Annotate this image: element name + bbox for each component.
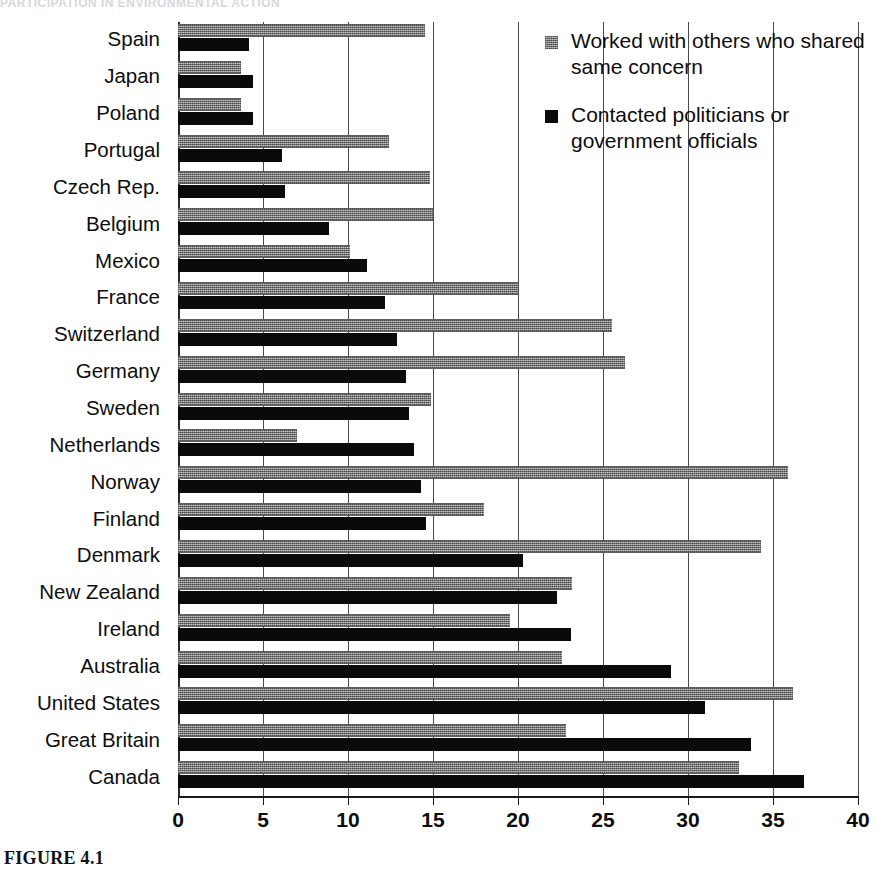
legend-label: Contacted politicians or government offi… bbox=[571, 102, 875, 154]
bar-worked-with-others bbox=[178, 135, 389, 148]
legend-label: Worked with others who shared same conce… bbox=[571, 28, 875, 80]
bar-worked-with-others bbox=[178, 577, 572, 590]
cropped-title: PARTICIPATION IN ENVIRONMENTAL ACTION bbox=[0, 0, 883, 10]
y-axis-label: New Zealand bbox=[0, 582, 160, 602]
y-axis-label: Canada bbox=[0, 767, 160, 787]
bar-row bbox=[178, 427, 858, 464]
bar-row bbox=[178, 243, 858, 280]
bar-contacted-politicians bbox=[178, 480, 421, 493]
x-axis-tick-label: 0 bbox=[148, 808, 208, 832]
bar-contacted-politicians bbox=[178, 701, 705, 714]
x-axis-tick-30 bbox=[688, 796, 689, 805]
bar-row bbox=[178, 354, 858, 391]
bar-contacted-politicians bbox=[178, 149, 282, 162]
bar-row bbox=[178, 391, 858, 428]
y-axis-label: Spain bbox=[0, 29, 160, 49]
y-axis-label: Switzerland bbox=[0, 324, 160, 344]
y-axis-label: Poland bbox=[0, 103, 160, 123]
bar-row bbox=[178, 722, 858, 759]
bar-contacted-politicians bbox=[178, 112, 253, 125]
bar-worked-with-others bbox=[178, 282, 518, 295]
bar-contacted-politicians bbox=[178, 370, 406, 383]
x-axis-tick-label: 35 bbox=[743, 808, 803, 832]
y-axis-label: Belgium bbox=[0, 214, 160, 234]
y-axis-label: France bbox=[0, 287, 160, 307]
x-axis-tick-label: 20 bbox=[488, 808, 548, 832]
bar-worked-with-others bbox=[178, 651, 562, 664]
bar-worked-with-others bbox=[178, 466, 788, 479]
y-axis-label: Mexico bbox=[0, 251, 160, 271]
bar-worked-with-others bbox=[178, 98, 241, 111]
y-axis-label: Portugal bbox=[0, 140, 160, 160]
bar-contacted-politicians bbox=[178, 628, 571, 641]
x-axis-tick-10 bbox=[348, 796, 349, 805]
bar-worked-with-others bbox=[178, 724, 566, 737]
bar-worked-with-others bbox=[178, 356, 625, 369]
bar-row bbox=[178, 464, 858, 501]
bar-worked-with-others bbox=[178, 319, 612, 332]
bar-contacted-politicians bbox=[178, 185, 285, 198]
x-axis-tick-label: 15 bbox=[403, 808, 463, 832]
bar-contacted-politicians bbox=[178, 222, 329, 235]
black-swatch-icon bbox=[545, 110, 558, 123]
bar-worked-with-others bbox=[178, 393, 431, 406]
bar-worked-with-others bbox=[178, 503, 484, 516]
x-axis-tick-35 bbox=[773, 796, 774, 805]
bar-contacted-politicians bbox=[178, 259, 367, 272]
bar-worked-with-others bbox=[178, 540, 761, 553]
x-axis-tick-label: 5 bbox=[233, 808, 293, 832]
bar-contacted-politicians bbox=[178, 591, 557, 604]
figure-caption: FIGURE 4.1 bbox=[4, 848, 104, 869]
bar-contacted-politicians bbox=[178, 775, 804, 788]
bar-worked-with-others bbox=[178, 429, 297, 442]
bar-contacted-politicians bbox=[178, 38, 249, 51]
bar-row bbox=[178, 575, 858, 612]
y-axis-label: Czech Rep. bbox=[0, 177, 160, 197]
bar-row bbox=[178, 612, 858, 649]
x-axis-tick-label: 40 bbox=[828, 808, 883, 832]
bar-contacted-politicians bbox=[178, 665, 671, 678]
bar-row bbox=[178, 538, 858, 575]
bar-row bbox=[178, 759, 858, 796]
y-axis-label: Finland bbox=[0, 509, 160, 529]
y-axis-label: Netherlands bbox=[0, 435, 160, 455]
x-axis-tick-0 bbox=[178, 796, 179, 805]
bar-worked-with-others bbox=[178, 208, 433, 221]
y-axis-label: Japan bbox=[0, 66, 160, 86]
legend-entry: Worked with others who shared same conce… bbox=[545, 28, 875, 80]
bar-worked-with-others bbox=[178, 61, 241, 74]
bar-worked-with-others bbox=[178, 761, 739, 774]
legend-entry: Contacted politicians or government offi… bbox=[545, 102, 875, 154]
y-axis-label: Great Britain bbox=[0, 730, 160, 750]
x-axis-tick-label: 10 bbox=[318, 808, 378, 832]
x-axis-tick-5 bbox=[263, 796, 264, 805]
x-axis-tick-20 bbox=[518, 796, 519, 805]
y-axis-label: Germany bbox=[0, 361, 160, 381]
bar-contacted-politicians bbox=[178, 517, 426, 530]
bar-contacted-politicians bbox=[178, 333, 397, 346]
bar-row bbox=[178, 280, 858, 317]
y-axis-label: Australia bbox=[0, 656, 160, 676]
x-axis-tick-40 bbox=[858, 796, 859, 805]
bar-contacted-politicians bbox=[178, 407, 409, 420]
figure-container: PARTICIPATION IN ENVIRONMENTAL ACTION Sp… bbox=[0, 0, 883, 875]
x-axis-tick-15 bbox=[433, 796, 434, 805]
bar-row bbox=[178, 649, 858, 686]
bar-row bbox=[178, 206, 858, 243]
bar-contacted-politicians bbox=[178, 738, 751, 751]
gray-swatch-icon bbox=[545, 36, 558, 49]
bar-worked-with-others bbox=[178, 245, 350, 258]
y-axis-label: Sweden bbox=[0, 398, 160, 418]
y-axis-labels: SpainJapanPolandPortugalCzech Rep.Belgiu… bbox=[0, 22, 170, 796]
bar-worked-with-others bbox=[178, 171, 430, 184]
bar-row bbox=[178, 685, 858, 722]
chart-legend: Worked with others who shared same conce… bbox=[545, 28, 875, 176]
bar-contacted-politicians bbox=[178, 443, 414, 456]
bar-contacted-politicians bbox=[178, 75, 253, 88]
x-axis-tick-25 bbox=[603, 796, 604, 805]
y-axis-label: Norway bbox=[0, 472, 160, 492]
bar-worked-with-others bbox=[178, 687, 793, 700]
x-axis-tick-label: 25 bbox=[573, 808, 633, 832]
bar-row bbox=[178, 317, 858, 354]
y-axis-label: Ireland bbox=[0, 619, 160, 639]
